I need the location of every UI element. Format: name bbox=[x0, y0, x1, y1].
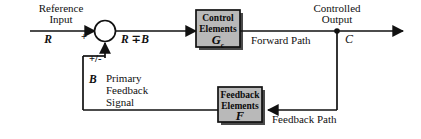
controlled-output-label-line2: Output bbox=[303, 14, 371, 26]
forward-path-label: Forward Path bbox=[251, 35, 311, 47]
plus-sign-label: + bbox=[81, 31, 87, 42]
control-gain-symbol: G bbox=[212, 33, 221, 47]
summing-junction-circle bbox=[95, 21, 116, 42]
feedback-elements-label-line1: Feedback bbox=[218, 90, 262, 100]
control-system-block-diagram: Reference Input R + R ∓B +/- B Primary F… bbox=[0, 0, 421, 139]
primary-feedback-label-line3: Signal bbox=[106, 97, 134, 109]
feedback-symbol-label: B bbox=[89, 73, 97, 85]
primary-feedback-label-line2: Feedback bbox=[106, 85, 148, 97]
control-elements-label-line1: Control bbox=[196, 13, 240, 23]
feedback-gain-symbol: F bbox=[236, 109, 244, 123]
output-symbol-label: C bbox=[345, 33, 353, 46]
plus-minus-label: +/- bbox=[89, 53, 101, 64]
reference-symbol-label: R bbox=[36, 33, 60, 45]
reference-input-label-line2: Input bbox=[27, 14, 95, 26]
feedback-elements-transfer-function: F bbox=[218, 109, 262, 126]
control-gain-subscript: c bbox=[221, 41, 224, 50]
primary-feedback-label-line1: Primary bbox=[106, 73, 141, 85]
feedback-path-label: Feedback Path bbox=[272, 114, 336, 126]
error-signal-label: R ∓B bbox=[121, 33, 149, 45]
control-elements-transfer-function: Gc bbox=[196, 33, 240, 50]
